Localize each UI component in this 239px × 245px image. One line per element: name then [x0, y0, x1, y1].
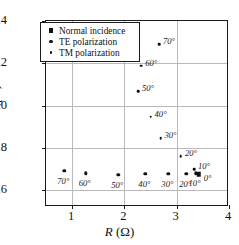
legend-marker-icon [45, 28, 57, 33]
data-point [193, 168, 196, 171]
data-point [140, 65, 143, 68]
data-point [116, 173, 119, 176]
legend-marker-glyph [50, 51, 53, 54]
gridline-horizontal [46, 63, 227, 64]
x-axis-tick [229, 205, 230, 209]
x-axis-tick-label: 3 [173, 209, 179, 224]
gridline-vertical [177, 21, 178, 205]
data-point-label: 40° [155, 109, 167, 119]
legend-item: TM polarization [45, 47, 135, 58]
y-axis-tick-label: 2.4 [0, 13, 7, 28]
data-point-label: 20° [185, 148, 197, 158]
data-point-label: 70° [57, 176, 69, 186]
legend-item: Normal incidence [45, 25, 135, 36]
data-point [184, 172, 187, 175]
y-axis-title: C (pF) [0, 85, 3, 119]
legend-marker-glyph [49, 28, 54, 33]
legend-item-label: TE polarization [59, 37, 117, 47]
y-axis-tick [42, 63, 46, 64]
data-point [159, 137, 162, 140]
gridline-horizontal [46, 190, 227, 191]
data-point-label: 60° [79, 178, 91, 188]
legend-item-label: Normal incidence [59, 26, 125, 36]
data-point [144, 172, 147, 175]
x-axis-tick [124, 205, 125, 209]
data-point [149, 115, 152, 118]
x-axis-unit: (Ω) [113, 224, 135, 239]
gridline-horizontal [46, 106, 227, 107]
x-axis-tick-label: 4 [225, 209, 231, 224]
data-point [84, 171, 87, 174]
y-axis-tick-label: 1.6 [0, 182, 7, 197]
data-point-label: 10° [189, 178, 201, 188]
legend-marker-glyph [49, 40, 52, 43]
legend-marker-icon [45, 40, 57, 43]
data-point [63, 169, 66, 172]
legend: Normal incidenceTE polarizationTM polari… [40, 22, 140, 62]
data-point-label: 30° [165, 130, 177, 140]
y-axis-tick [42, 190, 46, 191]
legend-item: TE polarization [45, 36, 135, 47]
y-axis-tick [42, 106, 46, 107]
data-point [167, 172, 170, 175]
y-axis-tick-label: 1.8 [0, 139, 7, 154]
x-axis-title: R (Ω) [0, 224, 239, 240]
y-axis-symbol: C [0, 110, 2, 119]
data-point [180, 155, 183, 158]
legend-item-label: TM polarization [59, 48, 120, 58]
legend-marker-icon [45, 51, 57, 54]
gridline-horizontal [46, 148, 227, 149]
y-axis-tick [42, 148, 46, 149]
data-point [158, 43, 161, 46]
data-point-label: 0° [204, 173, 212, 183]
x-axis-tick [72, 205, 73, 209]
scatter-chart-figure: 1.61.82.02.22.4 1234 C (pF) R (Ω) 0°70°6… [0, 0, 239, 245]
data-point-label: 50° [142, 83, 154, 93]
x-axis-tick-label: 2 [120, 209, 126, 224]
data-point [196, 172, 201, 177]
data-point-label: 10° [198, 161, 210, 171]
x-axis-symbol: R [105, 224, 113, 239]
data-point-label: 30° [161, 179, 173, 189]
data-point [137, 90, 140, 93]
data-point-label: 50° [111, 180, 123, 190]
data-point-label: 40° [138, 179, 150, 189]
data-point-label: 70° [163, 36, 175, 46]
x-axis-tick [177, 205, 178, 209]
y-axis-tick-label: 2.2 [0, 55, 7, 70]
data-point-label: 60° [145, 58, 157, 68]
y-axis-unit: (pF) [0, 85, 2, 111]
x-axis-tick-label: 1 [68, 209, 74, 224]
